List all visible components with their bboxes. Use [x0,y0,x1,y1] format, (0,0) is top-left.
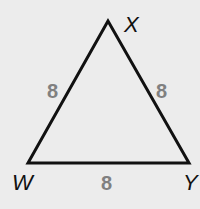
vertex-label-x: X [123,12,140,37]
vertex-label-w: W [12,170,35,195]
vertex-label-y: Y [183,170,199,195]
side-label-xy: 8 [156,80,167,102]
diagram-canvas: X W Y 8 8 8 [0,0,200,209]
side-label-wy: 8 [101,172,112,194]
side-label-wx: 8 [47,80,58,102]
triangle-diagram: X W Y 8 8 8 [0,0,200,209]
